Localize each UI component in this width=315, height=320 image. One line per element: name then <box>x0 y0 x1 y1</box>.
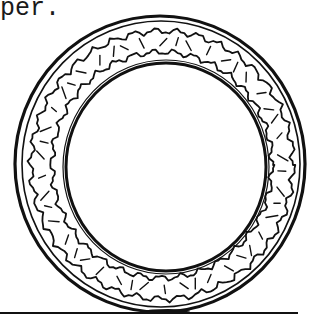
hatch-mark <box>52 107 57 111</box>
hatch-mark <box>40 127 51 131</box>
hatch-mark <box>96 267 103 274</box>
hatch-mark <box>62 87 66 99</box>
hatch-mark <box>140 283 148 290</box>
hatch-mark <box>272 114 278 123</box>
hatch-mark <box>234 62 238 72</box>
hatch-mark <box>49 221 60 222</box>
hatch-mark <box>113 46 114 56</box>
hatch-mark <box>277 187 284 196</box>
hatch-mark <box>40 141 48 143</box>
hatch-mark <box>164 285 165 293</box>
hatch-mark <box>139 39 144 49</box>
hatch-mark <box>68 83 75 85</box>
rim-inner-line <box>63 60 269 274</box>
tire <box>15 16 305 313</box>
hatch-mark <box>180 283 188 289</box>
hatch-mark <box>39 175 46 178</box>
tread-wave-inner <box>50 50 274 281</box>
hatch-mark <box>222 60 231 61</box>
tire-illustration <box>0 0 315 320</box>
hatch-mark <box>250 246 252 256</box>
rim-outer-line <box>66 63 266 271</box>
hatch-mark <box>225 266 234 271</box>
hatch-mark <box>257 93 266 94</box>
hatch-mark <box>41 191 49 200</box>
hatch-mark <box>117 276 121 284</box>
hatch-mark <box>45 206 52 208</box>
hatch-mark <box>75 249 78 258</box>
hatch-mark <box>278 155 288 161</box>
hatch-mark <box>208 275 211 283</box>
hatch-mark <box>186 41 191 51</box>
hatch-mark <box>264 109 274 110</box>
hatch-mark <box>160 39 167 46</box>
hatch-mark <box>120 46 128 50</box>
hatch-mark <box>81 259 90 260</box>
hatch-mark <box>65 235 68 244</box>
hatch-mark <box>176 38 178 46</box>
tread-hatch-marks <box>37 38 288 294</box>
hatch-mark <box>277 133 282 139</box>
hatch-mark <box>37 151 44 159</box>
hatch-mark <box>237 255 246 258</box>
hatch-mark <box>131 281 133 290</box>
hatch-mark <box>76 71 86 73</box>
tread-wave-outer <box>28 29 296 303</box>
hatch-mark <box>259 232 263 239</box>
hatch-mark <box>266 216 278 218</box>
hatch-mark <box>207 46 211 54</box>
